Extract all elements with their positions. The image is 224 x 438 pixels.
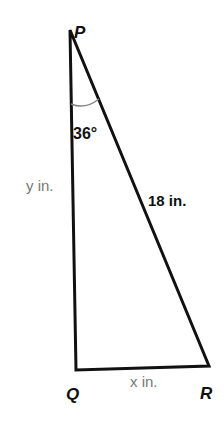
vertex-label-r: R bbox=[200, 385, 212, 402]
triangle-figure bbox=[0, 0, 224, 438]
angle-arc-p bbox=[71, 99, 99, 106]
vertex-label-p: P bbox=[74, 24, 85, 41]
vertex-label-q: Q bbox=[66, 386, 79, 403]
side-label-qr: x in. bbox=[130, 374, 158, 389]
side-label-pr: 18 in. bbox=[148, 193, 186, 208]
triangle-pqr bbox=[70, 30, 209, 370]
side-label-pq: y in. bbox=[26, 178, 54, 193]
angle-label-p: 36° bbox=[73, 126, 97, 142]
